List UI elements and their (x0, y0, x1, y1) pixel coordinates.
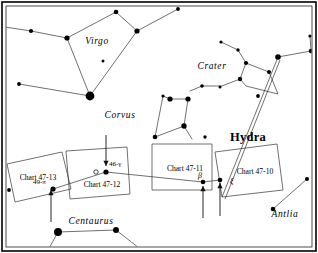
line-crater-b (190, 79, 240, 91)
star (134, 28, 139, 33)
corvus-label: Corvus (104, 110, 135, 120)
line-antlia (273, 179, 307, 209)
hydra-label: Hydra (230, 130, 267, 144)
star (161, 94, 164, 97)
star (167, 96, 172, 101)
pointer-arrows (48, 135, 222, 222)
arrow-to-46-gamma (103, 135, 108, 166)
star (305, 177, 309, 181)
star-label-49-pi: 49-π (33, 178, 46, 186)
antlia-label: Antlia (271, 209, 299, 219)
star (64, 35, 69, 40)
star (203, 135, 206, 138)
star-label-beta: β (197, 171, 202, 180)
star (17, 82, 21, 86)
line-hydra-long (222, 57, 278, 197)
arrow-to-beta (200, 186, 205, 218)
star (7, 188, 11, 192)
star (236, 48, 239, 51)
star (256, 94, 260, 98)
star (201, 180, 206, 185)
arrow-to-49-pi (48, 190, 53, 222)
constellation-name-labels: VirgoCraterCorvusHydraAntliaCentaurus (69, 36, 299, 226)
star (113, 227, 119, 233)
centaurus-label: Centaurus (69, 216, 114, 226)
star (54, 228, 62, 236)
line-centaurus (58, 230, 139, 248)
star (308, 34, 311, 37)
crater-label: Crater (198, 61, 227, 71)
line-corvus (155, 96, 188, 137)
star (275, 54, 281, 60)
line-belt (53, 172, 220, 189)
star (244, 61, 248, 65)
chart-box-47-10-label: Chart 47-10 (237, 167, 274, 176)
star (50, 186, 55, 191)
figure-outer-border (2, 2, 316, 251)
arrow-to-xi (217, 183, 222, 216)
line-crater-c (278, 36, 311, 57)
arrow-to-xi-head (217, 183, 222, 188)
star (218, 178, 223, 183)
arrow-to-46-gamma-head (103, 161, 108, 166)
star-label-xi: ξ (230, 177, 234, 186)
star (185, 96, 190, 101)
star-dots (7, 7, 313, 236)
star (200, 84, 204, 88)
arrow-to-beta-head (200, 186, 205, 191)
star-open (94, 170, 98, 174)
star (176, 7, 180, 11)
sky-map-canvas: Chart 47-13Chart 47-12Chart 47-11Chart 4… (0, 0, 318, 253)
chart-box-47-12-label: Chart 47-12 (84, 180, 121, 189)
line-virgo (5, 9, 178, 38)
star (238, 77, 242, 81)
line-virgo-west (19, 84, 90, 96)
star (219, 86, 222, 89)
star (219, 40, 222, 43)
star (103, 169, 108, 174)
star (114, 10, 119, 15)
star (86, 92, 95, 101)
star (153, 135, 158, 140)
star (181, 123, 186, 128)
star (309, 49, 314, 54)
star (267, 70, 271, 74)
star (102, 60, 105, 63)
figure-inner-border (6, 6, 312, 247)
virgo-label: Virgo (85, 36, 109, 46)
star-chart-figure: Chart 47-13Chart 47-12Chart 47-11Chart 4… (0, 0, 318, 253)
star-label-46-gamma: 46-γ (109, 160, 121, 168)
star (29, 29, 33, 33)
